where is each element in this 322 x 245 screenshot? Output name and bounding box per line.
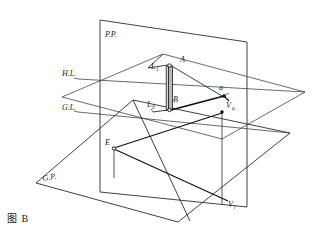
svg-text:1: 1 [156, 66, 159, 72]
picture-plane-outline [100, 20, 247, 207]
horizontal-eye-plane [62, 54, 305, 139]
label-vanish-Va: V a [226, 101, 235, 111]
label-point-L-upper: L 1 [150, 62, 159, 72]
figure-caption: 图 B [7, 210, 29, 225]
label-point-L-lower: L 0 [146, 100, 155, 110]
node-Va [221, 111, 224, 114]
label-point-B: B [173, 95, 178, 104]
label-vanish-Vl: V l [228, 200, 236, 210]
ground-diagonal [133, 100, 190, 221]
node-a [223, 95, 226, 98]
svg-text:0: 0 [152, 104, 155, 110]
perspective-diagram: P.P. G.P. H.L. G.L. A B a L 1 L 0 E V a … [0, 0, 322, 245]
horizon-line-group [74, 78, 305, 92]
label-horizon-line: H.L. [61, 69, 76, 78]
eye-point-rays [114, 113, 228, 201]
svg-text:l: l [234, 204, 236, 210]
ground-plane-outline [36, 100, 290, 222]
label-layer: P.P. G.P. H.L. G.L. A B a L 1 L 0 E V a … [42, 30, 236, 210]
label-picture-plane: P.P. [104, 30, 117, 39]
svg-text:a: a [232, 105, 235, 111]
label-ground-line: G.L. [62, 103, 76, 112]
label-ground-plane: G.P. [42, 172, 57, 183]
construction-rays [148, 54, 229, 112]
node-E [112, 147, 115, 150]
ground-line-group [74, 111, 290, 133]
vertical-column-AB [166, 66, 172, 110]
node-A [168, 64, 171, 67]
node-B [168, 108, 171, 111]
label-point-A: A [179, 55, 186, 64]
figure-container: P.P. G.P. H.L. G.L. A B a L 1 L 0 E V a … [0, 0, 322, 245]
label-point-E: E [104, 138, 110, 147]
label-point-a: a [219, 83, 223, 92]
